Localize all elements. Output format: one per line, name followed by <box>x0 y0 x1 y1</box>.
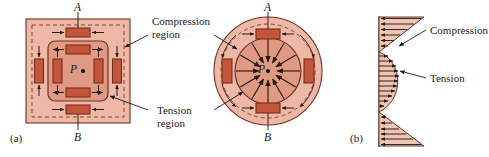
gauge-inner-top <box>66 45 90 54</box>
circular-diaphragm-group <box>214 12 322 130</box>
stress-profile-group <box>379 16 426 147</box>
gauge-inner-bottom <box>66 88 90 97</box>
gauge-circle-bottom <box>256 103 280 113</box>
marker-A-circle: A <box>264 1 271 14</box>
label-tension-region-line1: Tension <box>157 104 192 116</box>
gauge-circle-top <box>256 29 280 39</box>
center-dot-circle <box>266 69 270 73</box>
center-label-P-circle: P <box>258 63 265 76</box>
gauge-inner-right <box>94 59 103 83</box>
figure-container: Compression region Tension region Compre… <box>0 0 489 157</box>
label-tension-b: Tension <box>430 72 465 84</box>
label-compression-region-line2: region <box>152 28 180 40</box>
label-compression-b: Compression <box>430 24 488 36</box>
square-diaphragm-group <box>26 12 130 130</box>
gauge-outer-bottom <box>66 105 90 114</box>
profile-compression-top <box>379 17 424 52</box>
label-tension-region-line2: region <box>157 117 185 129</box>
gauge-inner-left <box>53 59 62 83</box>
marker-B-circle: B <box>264 131 271 144</box>
center-label-P-square: P <box>70 63 77 76</box>
gauge-outer-right <box>113 59 122 83</box>
gauge-outer-left <box>35 59 44 83</box>
leader-tension-b <box>400 71 426 78</box>
label-compression-region-line1: Compression <box>152 15 210 27</box>
panel-label-a: (a) <box>10 132 22 144</box>
panel-label-b: (b) <box>350 132 363 144</box>
gauge-circle-left <box>222 59 232 83</box>
center-dot-square <box>81 69 85 73</box>
marker-A-square: A <box>74 1 81 14</box>
gauge-outer-top <box>66 28 90 37</box>
gauge-circle-right <box>304 59 314 83</box>
marker-B-square: B <box>74 131 81 144</box>
